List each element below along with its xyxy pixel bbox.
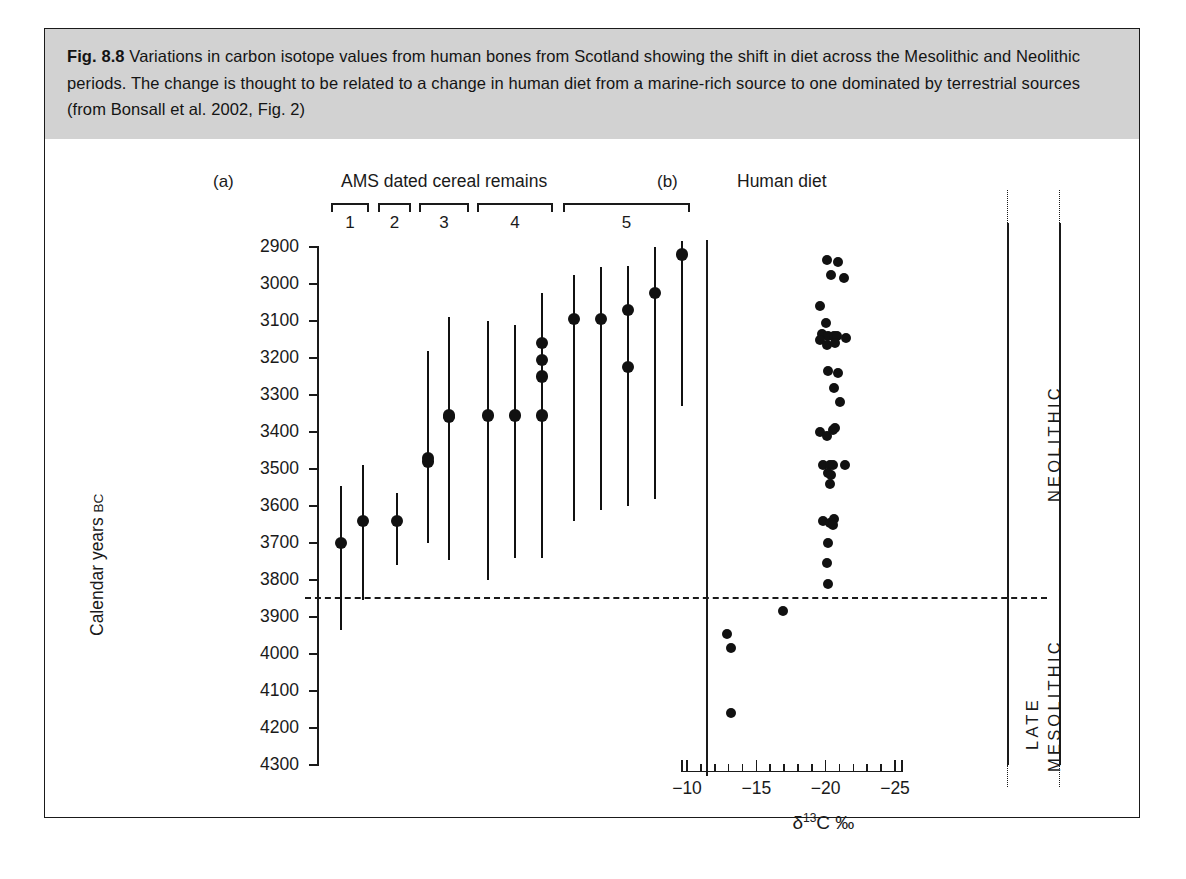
data-point-g5-6	[595, 313, 607, 325]
human-diet-point-4	[839, 273, 849, 283]
group-bracket-2	[378, 203, 411, 212]
x-tick-label-10: −10	[657, 778, 717, 799]
panel-a-title: AMS dated cereal remains	[341, 171, 547, 192]
y-tick-3000	[309, 283, 318, 285]
y-tick-3300	[309, 394, 318, 396]
y-tick-label-3200: 3200	[241, 347, 299, 368]
y-tick-3400	[309, 431, 318, 433]
x-tick-minor--12	[714, 764, 716, 771]
data-point-g4-1	[482, 409, 494, 421]
x-tick-minor--17	[783, 764, 785, 771]
data-point-g5-10	[676, 248, 688, 260]
period-rule-1	[1007, 223, 1009, 765]
period-label-neolithic: NEOLITHIC	[1045, 385, 1064, 502]
human-diet-point-3	[826, 270, 836, 280]
x-tick-label-25: −25	[865, 778, 925, 799]
y-tick-label-3800: 3800	[241, 569, 299, 590]
human-diet-point-5	[815, 301, 825, 311]
plot-area: (a)AMS dated cereal remains(b)Human diet…	[45, 139, 1139, 817]
error-bar-g4-1	[487, 321, 489, 580]
y-tick-label-4000: 4000	[241, 643, 299, 664]
x-axis-line	[681, 771, 903, 773]
error-bar-g5-5	[573, 275, 575, 521]
y-tick-label-3700: 3700	[241, 532, 299, 553]
group-bracket-label-3: 3	[419, 213, 469, 233]
error-bar-g1-2	[362, 465, 364, 600]
x-tick-minor--24	[880, 764, 882, 771]
human-diet-point-40	[726, 708, 736, 718]
human-diet-point-18	[835, 397, 845, 407]
human-diet-point-38	[722, 629, 732, 639]
data-point-g2-1	[391, 515, 403, 527]
data-point-g3-4	[443, 409, 455, 421]
y-tick-label-3000: 3000	[241, 273, 299, 294]
period-rule-dotted-bottom-1	[1007, 765, 1008, 787]
x-tick-minor--19	[811, 764, 813, 771]
human-diet-point-2	[833, 257, 843, 267]
human-diet-point-6	[821, 318, 831, 328]
period-label-mesolithic: MESOLITHIC	[1045, 640, 1064, 773]
x-tick-minor--14	[742, 764, 744, 771]
x-axis-label: δ13C ‰	[792, 811, 854, 834]
x-axis-left-cap	[681, 760, 683, 771]
y-tick-label-3900: 3900	[241, 606, 299, 627]
data-point-g3-2	[422, 455, 434, 467]
y-tick-2900	[309, 246, 318, 248]
human-diet-point-39	[726, 643, 736, 653]
figure-caption-text: Fig. 8.8 Variations in carbon isotope va…	[67, 43, 1119, 123]
human-diet-point-17	[829, 383, 839, 393]
mesolithic-neolithic-transition-line	[305, 597, 1047, 599]
error-bar-g3-4	[448, 317, 450, 559]
group-bracket-label-2: 2	[378, 213, 411, 233]
human-diet-point-33	[828, 520, 838, 530]
y-tick-label-4100: 4100	[241, 680, 299, 701]
error-bar-g5-9	[654, 247, 656, 499]
human-diet-point-14	[830, 338, 840, 348]
figure-number: Fig. 8.8	[67, 47, 125, 65]
data-point-g5-8	[622, 304, 634, 316]
error-bar-g2-1	[396, 493, 398, 565]
human-diet-point-37	[778, 606, 788, 616]
x-tick-minor--16	[769, 764, 771, 771]
y-tick-3200	[309, 357, 318, 359]
error-bar-g5-8	[627, 266, 629, 507]
error-bar-g5-4	[541, 293, 543, 558]
panel-divider	[706, 240, 708, 777]
error-bar-g1-1	[340, 486, 342, 630]
y-tick-4300	[309, 764, 318, 766]
y-tick-label-3600: 3600	[241, 495, 299, 516]
error-bar-g3-2	[427, 351, 429, 442]
human-diet-point-15	[823, 366, 833, 376]
panel-b-title: Human diet	[737, 171, 827, 192]
x-tick-label-15: −15	[726, 778, 786, 799]
group-bracket-3	[419, 203, 469, 212]
y-tick-3900	[309, 616, 318, 618]
period-label-late: LATE	[1023, 697, 1042, 750]
group-bracket-label-5: 5	[563, 213, 690, 233]
data-point-g5-4	[536, 337, 548, 349]
data-point-g1-2	[357, 515, 369, 527]
human-diet-point-26	[840, 460, 850, 470]
y-tick-label-3500: 3500	[241, 458, 299, 479]
group-bracket-1	[331, 203, 369, 212]
y-axis-label: Calendar years BC	[87, 493, 108, 635]
period-rule-dotted-top-2	[1059, 190, 1060, 223]
human-diet-point-34	[823, 538, 833, 548]
figure-page: Fig. 8.8 Variations in carbon isotope va…	[0, 0, 1186, 879]
y-tick-3700	[309, 542, 318, 544]
panel-b-tag: (b)	[657, 172, 678, 192]
y-tick-label-2900: 2900	[241, 236, 299, 257]
group-bracket-4	[477, 203, 553, 212]
y-tick-4200	[309, 727, 318, 729]
data-point-g5-9	[649, 287, 661, 299]
panel-a-tag: (a)	[213, 172, 234, 192]
x-tick-major--10	[686, 760, 688, 771]
human-diet-point-28	[826, 470, 836, 480]
group-bracket-label-4: 4	[477, 213, 553, 233]
error-bar-g4-2	[514, 325, 516, 558]
data-point-g4-2	[509, 409, 521, 421]
group-bracket-label-1: 1	[331, 213, 369, 233]
x-axis-right-cap	[901, 760, 903, 771]
y-tick-label-3100: 3100	[241, 310, 299, 331]
y-tick-3800	[309, 579, 318, 581]
